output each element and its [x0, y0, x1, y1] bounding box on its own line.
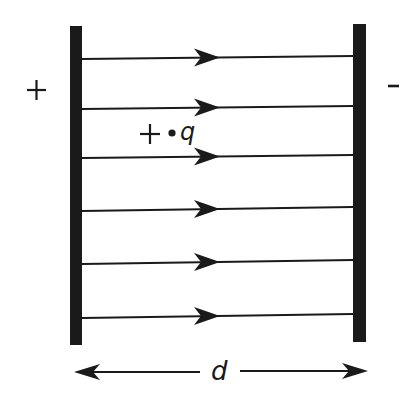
negative-sign-label: -: [0, 0, 399, 86]
negative-plate: [353, 24, 366, 342]
electric-field-lines: [82, 48, 353, 324]
charge-label: q: [180, 118, 195, 146]
capacitor-diagram: + - q d: [0, 0, 414, 407]
test-charge: q: [140, 118, 195, 146]
positive-plate: [70, 26, 82, 345]
charge-dot: [168, 129, 175, 136]
positive-sign-label: +: [0, 0, 46, 100]
separation-label: d: [211, 356, 228, 386]
separation-dimension: d: [74, 356, 368, 386]
